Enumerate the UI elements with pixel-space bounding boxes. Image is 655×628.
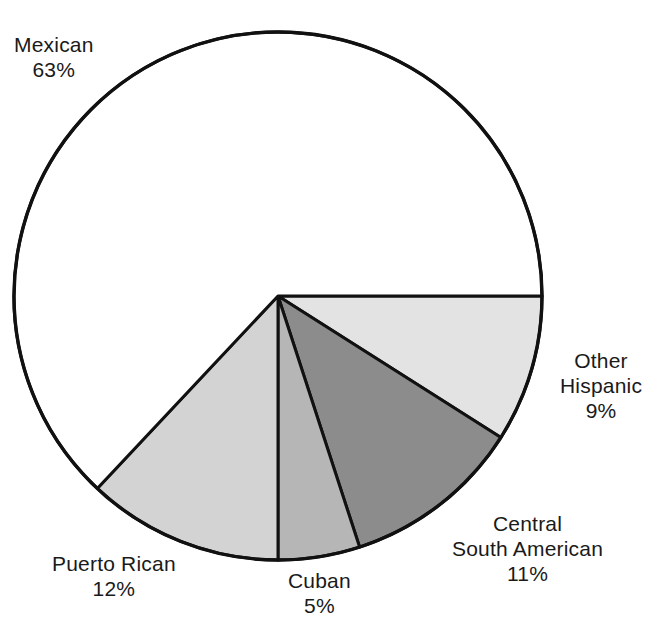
- pie-label-cuban-value: 5%: [288, 593, 351, 618]
- pie-label-cuban: Cuban 5%: [288, 568, 351, 618]
- pie-label-cuban-name: Cuban: [288, 568, 351, 593]
- pie-label-other-hispanic-value: 9%: [560, 398, 642, 423]
- pie-label-puerto-rican: Puerto Rican 12%: [52, 551, 176, 601]
- pie-label-mexican-value: 63%: [14, 57, 94, 82]
- pie-label-mexican-name: Mexican: [14, 32, 94, 57]
- pie-label-puerto-rican-name: Puerto Rican: [52, 551, 176, 576]
- pie-label-other-hispanic: Other Hispanic 9%: [560, 348, 642, 423]
- pie-label-central-south-american-name-line2: South American: [452, 536, 603, 561]
- pie-label-other-hispanic-name-line1: Other: [560, 348, 642, 373]
- pie-label-central-south-american-name-line1: Central: [452, 511, 603, 536]
- pie-label-puerto-rican-value: 12%: [52, 576, 176, 601]
- pie-chart-figure: Mexican 63% Other Hispanic 9% Central So…: [0, 0, 655, 628]
- pie-label-central-south-american-value: 11%: [452, 561, 603, 586]
- pie-label-mexican: Mexican 63%: [14, 32, 94, 82]
- pie-label-other-hispanic-name-line2: Hispanic: [560, 373, 642, 398]
- pie-label-central-south-american: Central South American 11%: [452, 511, 603, 586]
- pie-slices: [14, 32, 542, 560]
